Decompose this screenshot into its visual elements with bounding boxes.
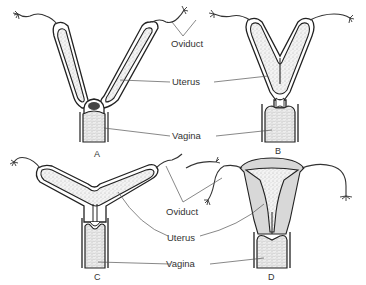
panel-d-simplex [186,157,352,268]
panel-letter-d: D [268,273,275,282]
panel-a-duplex [13,6,188,142]
label-oviduct-top: Oviduct [171,39,203,49]
label-oviduct-bottom: Oviduct [166,207,198,217]
panel-b-bipartite [209,10,354,142]
panel-letter-b: B [275,147,281,156]
label-uterus-bottom: Uterus [167,233,195,243]
label-vagina-top: Vagina [172,131,201,141]
label-uterus-top: Uterus [172,77,200,87]
panel-letter-a: A [94,150,100,159]
label-vagina-bottom: Vagina [166,259,195,269]
panel-c-bicornuate [10,154,182,268]
panel-letter-c: C [94,273,101,282]
